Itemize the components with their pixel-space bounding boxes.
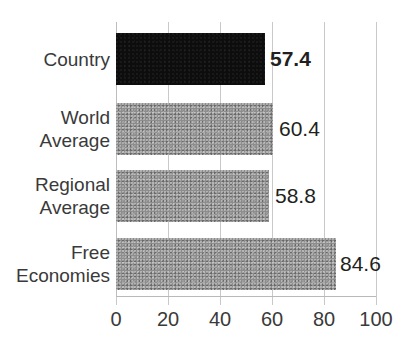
bar-regional-average	[116, 170, 269, 222]
category-label-world-average: World Average	[0, 103, 110, 155]
category-label-regional-average: Regional Average	[0, 170, 110, 222]
xtick-label-0: 0	[110, 308, 121, 331]
bar-row	[116, 170, 376, 222]
value-label-country: 57.4	[270, 33, 311, 85]
value-label-world-average: 60.4	[279, 103, 320, 155]
category-label-line: Average	[40, 129, 110, 152]
xtick-label-100: 100	[359, 308, 392, 331]
category-label-line: Average	[40, 196, 110, 219]
category-label-country: Country	[0, 33, 110, 85]
tickmark-40	[220, 297, 221, 305]
category-label-line: Country	[43, 48, 110, 71]
bar-row	[116, 33, 376, 85]
xtick-label-80: 80	[313, 308, 335, 331]
tickmark-80	[324, 297, 325, 305]
value-label-free-economies: 84.6	[340, 238, 381, 290]
xtick-label-40: 40	[209, 308, 231, 331]
tickmark-0	[116, 297, 117, 305]
tickmark-60	[272, 297, 273, 305]
category-label-line: Free	[71, 241, 110, 264]
chart-title-remnant	[120, 0, 300, 6]
xtick-label-20: 20	[157, 308, 179, 331]
tickmark-20	[168, 297, 169, 305]
bar-row	[116, 238, 376, 290]
tickmark-100	[376, 297, 377, 305]
x-axis-baseline	[116, 296, 376, 297]
plot-area	[116, 22, 376, 297]
xtick-label-60: 60	[261, 308, 283, 331]
bar-country	[116, 33, 265, 85]
value-label-regional-average: 58.8	[275, 170, 316, 222]
bar-world-average	[116, 103, 273, 155]
category-label-free-economies: Free Economies	[0, 238, 110, 290]
bar-row	[116, 103, 376, 155]
category-label-line: World	[61, 106, 110, 129]
category-label-line: Regional	[35, 173, 110, 196]
category-label-line: Economies	[16, 264, 110, 287]
bar-free-economies	[116, 238, 336, 290]
bar-chart: Country World Average Regional Average F…	[0, 0, 409, 363]
